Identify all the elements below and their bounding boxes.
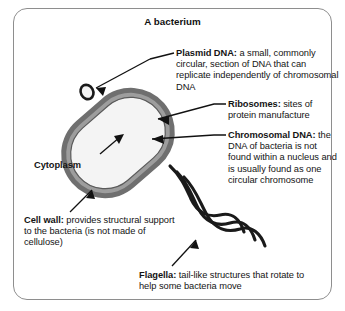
label-chromosomal-dna: Chromosomal DNA: the DNA of bacteria is … xyxy=(228,130,340,186)
cell-wall-outer xyxy=(43,70,193,216)
label-cytoplasm: Cytoplasm xyxy=(34,160,81,171)
label-cytoplasm-term: Cytoplasm xyxy=(34,160,81,170)
plasmid-dna-ring xyxy=(78,83,96,102)
label-ribosomes: Ribosomes: sites of protein manufacture xyxy=(228,99,342,121)
label-flagella-term: Flagella: xyxy=(139,270,176,280)
label-ribosomes-term: Ribosomes: xyxy=(228,99,281,109)
label-cell-wall-term: Cell wall: xyxy=(24,215,64,225)
label-chromosomal-dna-term: Chromosomal DNA: xyxy=(228,130,316,140)
label-plasmid-dna-term: Plasmid DNA: xyxy=(176,48,237,58)
label-cell-wall: Cell wall: provides structural support t… xyxy=(24,215,176,249)
bacterium-diagram-page: A bacterium xyxy=(0,0,345,311)
label-flagella: Flagella: tail-like structures that rota… xyxy=(139,270,314,292)
label-plasmid-dna: Plasmid DNA: a small, commonly circular,… xyxy=(176,48,342,93)
